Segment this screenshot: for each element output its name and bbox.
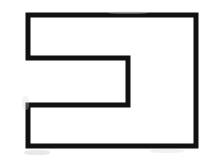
- shape-outline-svg: [0, 0, 216, 161]
- scan-smudge-bottom-right: [150, 149, 184, 153]
- scan-smudge-bottom-left: [24, 150, 50, 155]
- scan-smudge-top-right: [108, 11, 148, 14]
- notched-rectangle-outline: [28, 15, 196, 146]
- drawing-canvas: [0, 0, 216, 161]
- scan-smudge-left-mid: [22, 96, 29, 110]
